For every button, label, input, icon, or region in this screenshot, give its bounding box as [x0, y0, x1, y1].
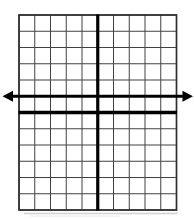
left-arrowhead	[3, 91, 14, 102]
graph-canvas	[0, 0, 194, 219]
coordinate-plane	[0, 0, 194, 219]
right-arrowhead	[183, 91, 194, 102]
